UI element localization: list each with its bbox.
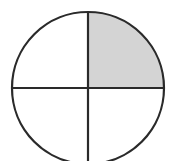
fraction-circle-diagram [0,0,169,161]
